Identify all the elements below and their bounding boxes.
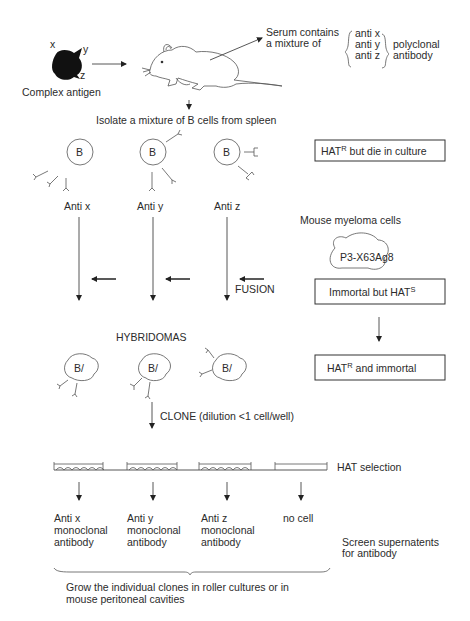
b-cell-label-anti-y: Anti y [137,200,164,212]
b-cell-anti-z: B [214,139,258,180]
grow-line-2: mouse peritoneal cavities [66,593,184,605]
svg-text:monoclonal: monoclonal [201,524,255,536]
hybridoma-diagram: x y z Complex antigen Serum contains a m… [0,0,470,621]
b-cell-anti-y: B [140,130,182,191]
svg-text:antibody: antibody [201,536,241,548]
b-cell-note: HATR but die in culture [321,144,427,157]
hybridomas-title: HYBRIDOMAS [116,331,187,343]
isolate-step-label: Isolate a mixture of B cells from spleen [96,114,276,126]
arrow-mouse-to-serum [210,38,262,60]
epitope-z: z [80,69,85,81]
grow-line-1: Grow the individual clones in roller cul… [66,581,289,593]
hybridoma-anti-x: B/ [57,354,98,397]
antibody-label: antibody [393,49,433,61]
hybridoma-note: HATR and immortal [327,361,416,374]
svg-text:B: B [223,146,230,158]
hybridoma-anti-y: B/ [130,354,171,399]
myeloma-cell-line: P3-X63Ag8 [340,251,394,263]
epitope-x: x [50,38,56,50]
mouse-illustration [142,45,282,90]
svg-text:Anti y: Anti y [127,512,154,524]
hybridoma-anti-z: B/ [199,348,246,381]
well-result-anti-z: Anti z monoclonal antibody [201,512,255,548]
svg-text:B/: B/ [222,362,232,374]
epitope-y: y [83,43,89,55]
well-result-no-cell: no cell [283,512,313,524]
serum-left-brace [345,31,352,67]
svg-text:antibody: antibody [54,536,94,548]
well-result-anti-x: Anti x monoclonal antibody [54,512,108,548]
hat-selection-label: HAT selection [337,461,402,473]
svg-text:B/: B/ [74,362,84,374]
svg-text:monoclonal: monoclonal [127,524,181,536]
svg-text:B: B [149,146,156,158]
culture-plate [54,462,327,470]
clone-step-label: CLONE (dilution <1 cell/well) [160,410,294,422]
b-cell-label-anti-z: Anti z [214,200,240,212]
svg-text:B: B [76,146,83,158]
well-result-anti-y: Anti y monoclonal antibody [127,512,181,548]
bottom-brace [54,568,330,575]
svg-text:no cell: no cell [283,512,313,524]
complex-antigen: x y z [50,38,89,81]
svg-text:Anti x: Anti x [54,512,81,524]
fusion-label: FUSION [235,283,275,295]
serum-right-brace [382,34,389,68]
complex-antigen-label: Complex antigen [22,86,101,98]
svg-text:monoclonal: monoclonal [54,524,108,536]
serum-antibody-z: anti z [355,49,380,61]
b-cell-label-anti-x: Anti x [64,200,91,212]
svg-text:antibody: antibody [127,536,167,548]
svg-text:Anti z: Anti z [201,512,227,524]
b-cell-anti-x: B [33,139,93,191]
serum-line-2: a mixture of [266,37,321,49]
svg-text:B/: B/ [148,362,158,374]
screen-line-2: for antibody [342,547,398,559]
myeloma-title: Mouse myeloma cells [300,214,401,226]
myeloma-status: Immortal but HATS [329,285,416,298]
